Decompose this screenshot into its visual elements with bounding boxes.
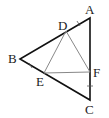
- label-d: D: [58, 18, 67, 33]
- label-a: A: [85, 2, 95, 17]
- label-b: B: [8, 51, 17, 66]
- label-e: E: [36, 74, 44, 89]
- label-f: F: [93, 65, 100, 80]
- label-c: C: [85, 102, 94, 117]
- triangle-abc: [20, 18, 90, 100]
- triangle-def: [44, 31, 90, 73]
- geometry-figure: A B C D E F: [0, 0, 109, 118]
